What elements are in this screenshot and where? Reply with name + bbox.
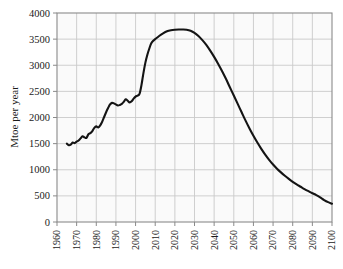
x-tick-label: 2060 bbox=[248, 230, 259, 250]
energy-production-line-chart: 05001000150020002500300035004000 1960197… bbox=[0, 0, 343, 269]
y-tick-label: 1000 bbox=[29, 164, 50, 175]
y-tick-label: 2000 bbox=[29, 112, 50, 123]
x-tick-label: 2030 bbox=[189, 230, 200, 250]
x-axis-tick-labels: 1960197019801990200020102020203020402050… bbox=[51, 230, 337, 250]
x-tick-label: 2010 bbox=[150, 230, 161, 250]
x-tick-label: 2090 bbox=[307, 230, 318, 250]
x-tick-label: 1980 bbox=[91, 230, 102, 250]
y-tick-label: 3500 bbox=[29, 34, 50, 45]
y-axis-title: Mtoe per year bbox=[8, 86, 20, 148]
x-tick-label: 1960 bbox=[51, 230, 62, 250]
y-tick-label: 1500 bbox=[29, 138, 50, 149]
x-tick-label: 2070 bbox=[267, 230, 278, 250]
x-tick-label: 2020 bbox=[169, 230, 180, 250]
x-tick-label: 1970 bbox=[71, 230, 82, 250]
y-tick-label: 4000 bbox=[29, 8, 50, 19]
x-tick-label: 1990 bbox=[110, 230, 121, 250]
x-tick-label: 2080 bbox=[287, 230, 298, 250]
y-tick-label: 2500 bbox=[29, 86, 50, 97]
x-tick-label: 2100 bbox=[326, 230, 337, 250]
x-tick-label: 2040 bbox=[209, 230, 220, 250]
y-tick-label: 0 bbox=[45, 217, 50, 228]
x-tick-label: 2050 bbox=[228, 230, 239, 250]
x-tick-label: 2000 bbox=[130, 230, 141, 250]
chart-figure: 05001000150020002500300035004000 1960197… bbox=[0, 0, 343, 269]
y-tick-label: 3000 bbox=[29, 60, 50, 71]
y-tick-label: 500 bbox=[34, 190, 50, 201]
